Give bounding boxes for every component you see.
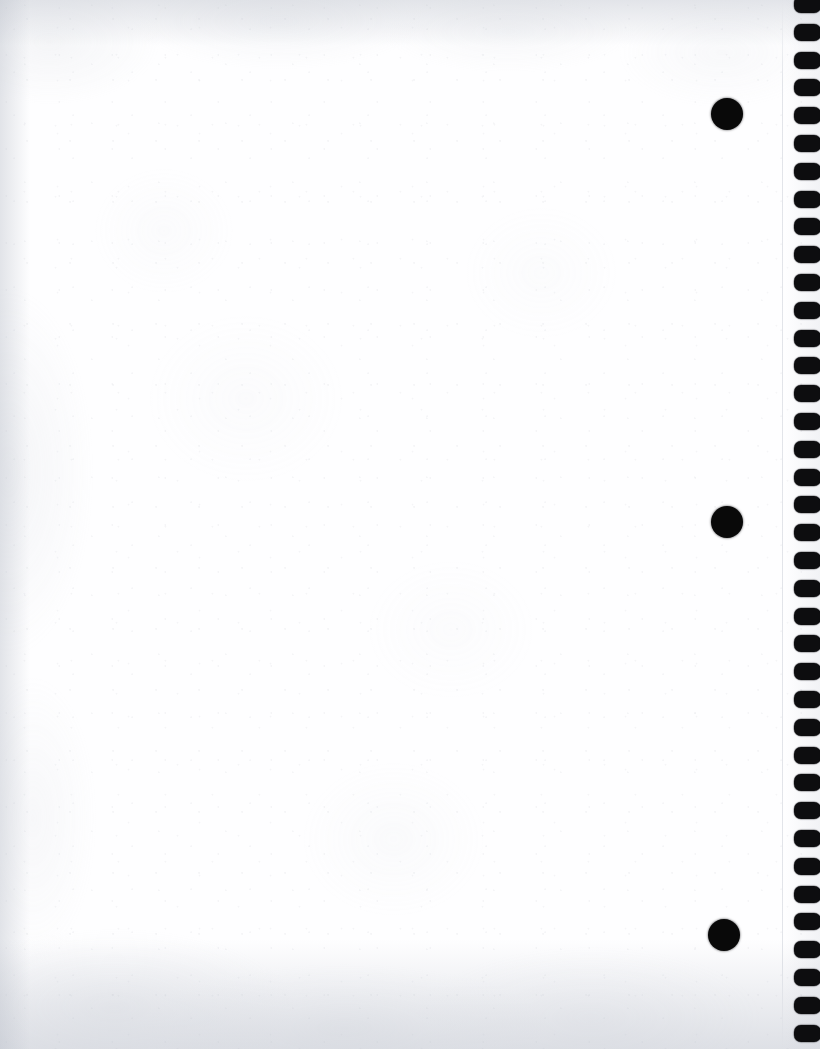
binding-hole [794, 969, 820, 986]
bottom-edge-shadow [0, 939, 820, 1049]
binding-hole [794, 886, 820, 903]
binding-hole [794, 941, 820, 958]
binding-hole [794, 469, 820, 486]
binding-hole [794, 107, 820, 124]
binding-hole [794, 802, 820, 819]
scanned-page-canvas [0, 0, 820, 1049]
binding-hole [794, 24, 820, 41]
binding-hole [794, 635, 820, 652]
binding-hole [794, 274, 820, 291]
punch-dot-bottom [708, 919, 740, 951]
top-edge-shadow [0, 0, 820, 46]
binding-hole [794, 52, 820, 69]
binding-hole [794, 385, 820, 402]
binding-hole [794, 79, 820, 96]
binding-hole [794, 218, 820, 235]
binding-hole [794, 747, 820, 764]
binding-hole-strip [792, 0, 820, 1049]
binding-hole [794, 163, 820, 180]
binding-hole [794, 246, 820, 263]
binding-hole [794, 774, 820, 791]
binding-hole [794, 191, 820, 208]
binding-hole [794, 496, 820, 513]
punch-dot-middle [711, 506, 743, 538]
binding-hole [794, 997, 820, 1014]
binding-hole [794, 302, 820, 319]
binding-hole [794, 441, 820, 458]
paper-grain-overlay [0, 0, 820, 1049]
binding-hole [794, 0, 820, 13]
punch-dot-top [711, 98, 743, 130]
binding-hole [794, 663, 820, 680]
binding-hole [794, 135, 820, 152]
binding-hole [794, 580, 820, 597]
binding-crease-line [782, 0, 783, 1049]
binding-hole [794, 552, 820, 569]
binding-hole [794, 719, 820, 736]
paper-sheet [0, 0, 820, 1049]
binding-hole [794, 913, 820, 930]
binding-hole [794, 858, 820, 875]
binding-hole [794, 524, 820, 541]
paper-texture-overlay [0, 0, 820, 1049]
left-edge-shadow [0, 0, 30, 1049]
binding-hole [794, 1025, 820, 1042]
binding-hole [794, 608, 820, 625]
binding-hole [794, 357, 820, 374]
binding-hole [794, 413, 820, 430]
binding-hole [794, 830, 820, 847]
binding-hole [794, 330, 820, 347]
binding-hole [794, 691, 820, 708]
